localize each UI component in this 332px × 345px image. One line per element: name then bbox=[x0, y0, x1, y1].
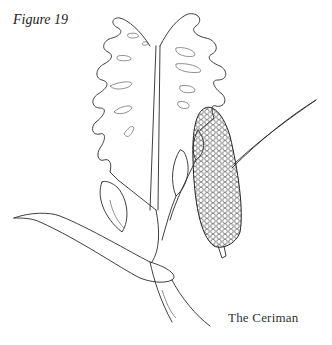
fruit-spadix-icon bbox=[193, 107, 241, 258]
blade-icon bbox=[232, 100, 316, 168]
stem-icon bbox=[14, 160, 210, 326]
ceriman-illustration bbox=[0, 0, 332, 345]
figure-caption: The Ceriman bbox=[228, 310, 298, 326]
spathe-icon bbox=[100, 130, 204, 232]
